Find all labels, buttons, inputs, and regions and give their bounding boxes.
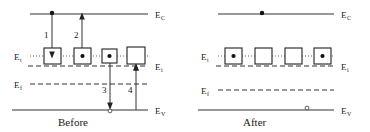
trap-box-before-4 xyxy=(127,47,145,64)
trap-electron-after-1 xyxy=(231,54,235,58)
hole-circle-valence-after xyxy=(305,106,309,110)
trap-box-after-3 xyxy=(285,48,302,64)
level-sublabel-Et-before: t xyxy=(20,57,22,63)
process-number-3: 3 xyxy=(102,85,107,95)
process-arrowhead-4-overlay xyxy=(133,64,139,71)
level-sublabel-Ev-after: V xyxy=(347,111,352,117)
trap-electron-after-4 xyxy=(320,54,324,58)
panel-before: E C E t E i E f E V 1 2 xyxy=(12,10,166,129)
level-sublabel-Ec-after: C xyxy=(347,15,351,21)
process-number-1: 1 xyxy=(44,30,49,40)
process-number-4: 4 xyxy=(128,85,133,95)
panel-caption-after: After xyxy=(243,116,267,128)
level-sublabel-Et-after: t xyxy=(207,57,209,63)
trap-box-after-4 xyxy=(314,48,331,64)
level-sublabel-Ef-before: f xyxy=(20,85,22,91)
trap-box-before-2 xyxy=(74,48,91,64)
process-number-2: 2 xyxy=(74,30,79,40)
trap-electron-before-3 xyxy=(107,54,111,58)
trap-electron-before-2 xyxy=(80,54,84,58)
band-diagram-figure: E C E t E i E f E V 1 2 xyxy=(0,0,370,132)
panel-after: E C E t E i E f E V xyxy=(198,10,352,129)
hole-circle-valence-before xyxy=(108,109,112,113)
level-sublabel-Ei-before: i xyxy=(161,67,163,73)
level-sublabel-Ei-after: i xyxy=(347,67,349,73)
panel-caption-before: Before xyxy=(58,116,88,128)
trap-box-after-1 xyxy=(225,48,242,64)
process-arrow-3 xyxy=(107,56,113,110)
trap-box-before-3 xyxy=(102,49,117,63)
electron-dot-conduction-after xyxy=(260,11,264,15)
trap-box-after-2 xyxy=(255,48,272,64)
level-sublabel-Ec-before: C xyxy=(161,15,165,21)
level-sublabel-Ev-before: V xyxy=(161,111,166,117)
level-sublabel-Ef-after: f xyxy=(207,91,209,97)
